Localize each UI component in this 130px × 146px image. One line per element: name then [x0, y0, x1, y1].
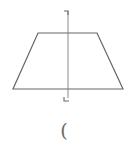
top-bracket-icon	[64, 11, 68, 15]
caption-parenthesis: (	[58, 119, 70, 141]
